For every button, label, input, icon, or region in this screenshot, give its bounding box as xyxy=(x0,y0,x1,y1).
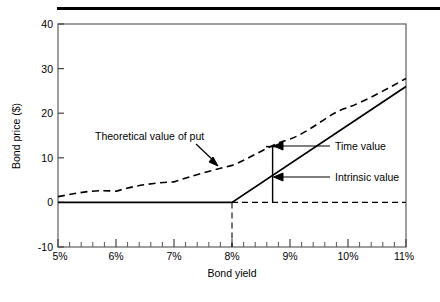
y-tick-label: 20 xyxy=(41,107,53,119)
x-tick-label: 6% xyxy=(108,250,123,262)
y-axis-label: Bond price ($) xyxy=(10,103,22,169)
y-tick-label: -10 xyxy=(38,241,53,253)
x-axis-label: Bond yield xyxy=(207,267,256,279)
y-tick-label: 10 xyxy=(41,152,53,164)
x-tick-label: 8% xyxy=(224,250,239,262)
y-tick-label: 40 xyxy=(41,18,53,30)
x-tick-label: 9% xyxy=(282,250,297,262)
x-tick-label: 5% xyxy=(52,250,67,262)
y-tick-label: 30 xyxy=(41,63,53,75)
y-tick-label: 0 xyxy=(47,196,53,208)
intrinsic-value-label: Intrinsic value xyxy=(335,171,399,183)
x-tick-label: 11% xyxy=(394,250,414,262)
time-value-label: Time value xyxy=(335,140,386,152)
theoretical-value-label: Theoretical value of put xyxy=(95,130,204,142)
figure-container: 40 30 20 10 0 -10 5% 6% 7% 8% 9% 10% 11%… xyxy=(0,0,440,302)
x-tick-labels: 5% 6% 7% 8% 9% 10% 11% xyxy=(52,250,414,262)
x-tick-label: 7% xyxy=(166,250,181,262)
chart-canvas: 40 30 20 10 0 -10 5% 6% 7% 8% 9% 10% 11%… xyxy=(0,0,440,302)
y-tick-labels: 40 30 20 10 0 -10 xyxy=(38,18,53,253)
x-tick-label: 10% xyxy=(337,250,358,262)
